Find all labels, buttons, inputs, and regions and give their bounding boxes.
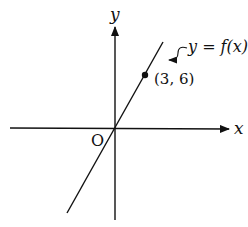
y-axis-label: y bbox=[109, 4, 120, 24]
label-leader-arrow bbox=[169, 47, 187, 60]
point-label: (3, 6) bbox=[154, 70, 194, 88]
graph-canvas: y x O y = f(x) (3, 6) bbox=[0, 0, 248, 227]
function-label: y = f(x) bbox=[187, 37, 248, 56]
point-marker bbox=[142, 72, 148, 78]
x-axis-label: x bbox=[234, 118, 244, 138]
x-axis bbox=[10, 128, 229, 129]
origin-label: O bbox=[91, 131, 104, 150]
